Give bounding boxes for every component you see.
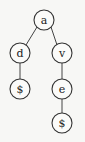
node-d: d xyxy=(10,43,30,63)
node-d-terminal: $ xyxy=(10,79,30,99)
node-label: d xyxy=(16,47,23,60)
node-e-terminal: $ xyxy=(52,113,72,133)
trie-diagram: a d v $ e $ xyxy=(0,0,85,142)
node-label: $ xyxy=(17,83,24,96)
edges xyxy=(20,27,62,113)
node-e: e xyxy=(52,79,72,99)
node-a: a xyxy=(34,10,54,30)
node-v: v xyxy=(52,43,72,63)
node-label: $ xyxy=(59,117,66,130)
node-label: e xyxy=(59,83,66,96)
node-label: v xyxy=(58,47,66,60)
edge-a-v xyxy=(51,27,57,45)
edge-a-d xyxy=(26,27,37,45)
node-label: a xyxy=(41,14,48,27)
